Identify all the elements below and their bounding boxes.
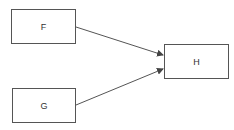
edge-f-to-h [76, 27, 163, 55]
node-g-label: G [40, 101, 47, 111]
node-f-label: F [41, 22, 47, 32]
node-f[interactable]: F [11, 9, 76, 44]
node-h[interactable]: H [164, 44, 229, 79]
node-g[interactable]: G [12, 88, 76, 123]
node-h-label: H [193, 57, 200, 67]
edge-g-to-h [76, 69, 163, 105]
